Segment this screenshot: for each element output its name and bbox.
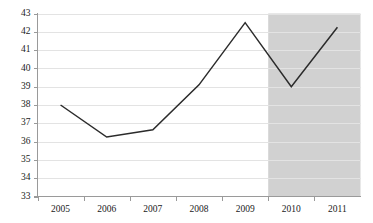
y-axis-tick-label: 33 — [21, 191, 31, 201]
y-axis-tick-label: 40 — [21, 63, 31, 73]
line-chart: 3334353637383940414243200520062007200820… — [0, 0, 373, 223]
y-axis-tick-label: 38 — [21, 99, 31, 109]
chart-canvas: 3334353637383940414243200520062007200820… — [0, 0, 373, 223]
y-axis-tick-label: 37 — [21, 117, 31, 127]
x-axis-tick-label: 2008 — [190, 204, 209, 214]
y-axis-tick-label: 43 — [21, 8, 31, 18]
x-axis-tick-label: 2006 — [97, 204, 116, 214]
x-axis-tick-label: 2007 — [143, 204, 162, 214]
x-axis-tick-label: 2005 — [51, 204, 70, 214]
y-axis-tick-label: 42 — [21, 26, 31, 36]
x-axis-ticks: 2005200620072008200920102011 — [39, 197, 347, 214]
y-axis-tick-label: 41 — [21, 44, 31, 54]
y-axis-tick-label: 36 — [21, 136, 31, 146]
x-axis-tick-label: 2009 — [236, 204, 255, 214]
x-axis-tick-label: 2010 — [282, 204, 301, 214]
x-axis-tick-label: 2011 — [328, 204, 347, 214]
y-axis-tick-label: 34 — [21, 172, 31, 182]
y-axis-tick-label: 35 — [21, 154, 31, 164]
y-axis-tick-label: 39 — [21, 81, 31, 91]
y-axis-ticks: 3334353637383940414243 — [21, 8, 38, 201]
